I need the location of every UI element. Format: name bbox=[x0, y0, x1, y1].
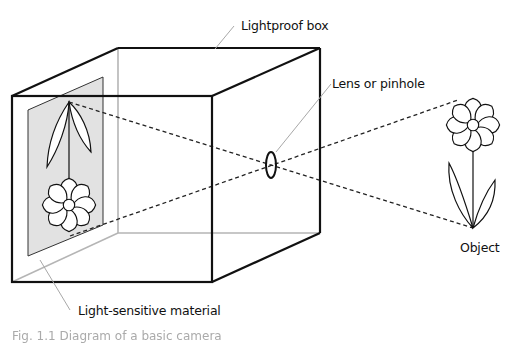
object-flower bbox=[446, 98, 499, 228]
label-lens: Lens or pinhole bbox=[332, 76, 425, 91]
label-lightproof-box: Lightproof box bbox=[241, 18, 328, 33]
label-object: Object bbox=[460, 240, 500, 255]
light-rays bbox=[69, 100, 473, 236]
label-light-sensitive-material: Light-sensitive material bbox=[78, 303, 221, 318]
figure-caption: Fig. 1.1 Diagram of a basic camera bbox=[12, 329, 222, 343]
